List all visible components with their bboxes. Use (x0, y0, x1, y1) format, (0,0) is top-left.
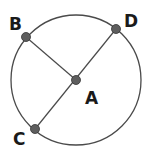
label-a: A (85, 88, 99, 108)
label-c: C (13, 129, 25, 149)
point-b (22, 33, 31, 42)
point-c (31, 125, 40, 134)
point-a (72, 76, 81, 85)
diagram-canvas: A B C D (0, 0, 147, 152)
label-d: D (124, 11, 138, 31)
label-b: B (9, 14, 22, 34)
segment-b-a (26, 37, 76, 80)
point-d (112, 25, 121, 34)
circle-diagram: A B C D (0, 0, 147, 152)
